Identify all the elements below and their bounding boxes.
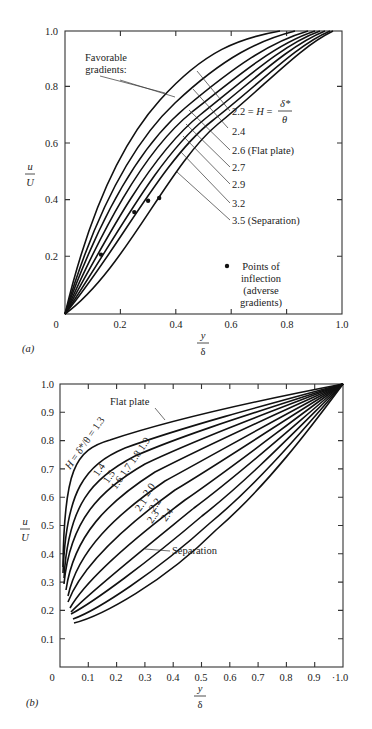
plot-b-ytick: 0.8 — [41, 435, 54, 446]
svg-text:δ*: δ* — [280, 98, 291, 109]
svg-text:3.5 (Separation): 3.5 (Separation) — [232, 215, 300, 227]
svg-text:2.4: 2.4 — [232, 126, 246, 137]
svg-text:inflection: inflection — [241, 273, 282, 284]
plot-a-xtick: 0.8 — [280, 319, 293, 330]
flat-plate-label: Flat plate — [110, 396, 165, 420]
plot-a-xlabel: y δ — [197, 330, 209, 357]
plot-a-xtick: 0.4 — [169, 319, 183, 330]
plot-b-ylabel: u U — [20, 516, 30, 543]
plot-a-ytick: 0.6 — [45, 138, 58, 149]
panel-a-label: (a) — [22, 343, 35, 355]
plot-a-xtick: 0 — [53, 319, 58, 330]
svg-text:0.7: 0.7 — [251, 672, 264, 683]
favorable-gradients-label: Favorable gradients: — [85, 52, 175, 97]
svg-text:u: u — [27, 161, 32, 172]
svg-text:·1.0: ·1.0 — [332, 672, 349, 683]
plot-a-xtick: 0.2 — [113, 319, 126, 330]
svg-text:2.6 (Flat plate): 2.6 (Flat plate) — [232, 145, 295, 157]
svg-text:0.4: 0.4 — [166, 672, 180, 683]
svg-text:U: U — [21, 532, 30, 543]
svg-text:0.6: 0.6 — [223, 672, 236, 683]
plot-b-ytick: 0.9 — [41, 407, 54, 418]
svg-text:0.8: 0.8 — [279, 672, 292, 683]
svg-text:gradients:: gradients: — [85, 64, 126, 75]
svg-text:2.0: 2.0 — [141, 481, 158, 498]
h-labels-a: 2.2 = H = δ* θ 2.4 2.6 (Flat plate) 2.7 … — [177, 71, 300, 227]
plot-b-ytick: 0.4 — [41, 549, 55, 560]
panel-a: 1.0 0.8 0.6 0.4 0.2 0 0.2 0.4 0.6 0.8 1.… — [22, 26, 349, 357]
plot-b-xlabel: y δ — [194, 683, 206, 710]
svg-text:θ: θ — [282, 114, 287, 125]
inflection-legend: Points of inflection (adverse gradients) — [225, 261, 283, 309]
panel-b-label: (b) — [26, 697, 39, 709]
plot-a-ytick: 0.2 — [45, 251, 58, 262]
svg-text:2.9: 2.9 — [232, 179, 245, 190]
svg-text:0.1: 0.1 — [81, 672, 94, 683]
plot-a-xtick: 0.6 — [224, 319, 237, 330]
panel-b: 1.0 0.9 0.8 0.7 0.6 0.5 0.4 0.3 0.2 0.1 … — [20, 379, 348, 710]
svg-text:Separation: Separation — [172, 545, 218, 556]
svg-text:Favorable: Favorable — [85, 52, 127, 63]
svg-text:0: 0 — [49, 672, 54, 683]
plot-a-ytick: 1.0 — [45, 26, 58, 37]
plot-b-ytick: 0.3 — [41, 577, 54, 588]
svg-text:u: u — [22, 516, 27, 527]
svg-text:gradients): gradients) — [240, 297, 282, 309]
plot-b-xticks: 0 0.1 0.2 0.3 0.4 0.5 0.6 0.7 0.8 0.9 ·1… — [49, 672, 348, 683]
svg-text:3.2: 3.2 — [232, 198, 245, 209]
svg-text:2.7: 2.7 — [232, 162, 245, 173]
svg-text:0.2: 0.2 — [109, 672, 122, 683]
plot-b-ytick: 0.5 — [41, 520, 54, 531]
svg-text:δ: δ — [198, 699, 203, 710]
svg-text:2.2 = H =: 2.2 = H = — [232, 106, 273, 117]
plot-b-ytick: 1.0 — [41, 379, 54, 390]
svg-text:0.3: 0.3 — [138, 672, 151, 683]
plot-a-ytick: 0.4 — [45, 194, 59, 205]
svg-text:U: U — [26, 177, 35, 188]
svg-text:δ: δ — [201, 346, 206, 357]
svg-text:Points of: Points of — [242, 261, 280, 272]
plot-b-ytick: 0.2 — [41, 605, 54, 616]
plot-a-ylabel: u U — [25, 161, 35, 188]
svg-text:0.9: 0.9 — [307, 672, 320, 683]
svg-text:(adverse: (adverse — [243, 285, 279, 297]
figure: 1.0 0.8 0.6 0.4 0.2 0 0.2 0.4 0.6 0.8 1.… — [0, 0, 372, 729]
svg-text:y: y — [197, 683, 203, 694]
plot-b-ytick: 0.6 — [41, 492, 54, 503]
svg-text:Flat plate: Flat plate — [110, 396, 150, 407]
svg-text:y: y — [200, 330, 206, 341]
plot-a-xtick: 1.0 — [335, 319, 348, 330]
svg-text:0.5: 0.5 — [194, 672, 207, 683]
plot-b-ytick: 0.7 — [41, 464, 54, 475]
plot-a-ytick: 0.8 — [45, 81, 58, 92]
plot-b-ytick: 0.1 — [41, 634, 54, 645]
